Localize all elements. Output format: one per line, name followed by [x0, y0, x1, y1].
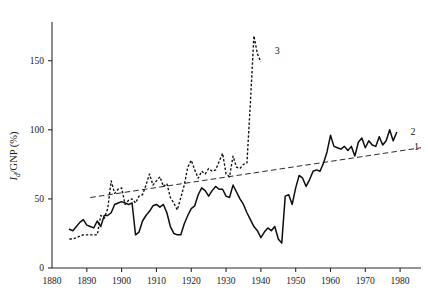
y-axis-label-wrapper: Id/GNP (%) [6, 96, 24, 216]
x-tick-label: 1930 [217, 276, 236, 286]
x-tick-label: 1920 [182, 276, 201, 286]
x-tick-label: 1950 [286, 276, 305, 286]
x-tick-label: 1910 [147, 276, 166, 286]
y-axis-label-symbol: I [8, 177, 19, 181]
series-trend-line [90, 148, 421, 198]
y-axis-label: Id/GNP (%) [8, 131, 22, 180]
x-tick-label: 1970 [356, 276, 375, 286]
chart-axes [52, 22, 421, 268]
curve-label-1: 1 [414, 141, 419, 152]
curve-label-3: 3 [275, 45, 280, 56]
y-axis-label-subscript: d [13, 173, 22, 177]
y-tick-label: 100 [30, 125, 45, 135]
y-tick-label: 0 [39, 263, 44, 273]
y-tick-label: 150 [30, 56, 45, 66]
series-solid-curve [69, 130, 396, 243]
x-tick-label: 1900 [112, 276, 131, 286]
x-axis-ticks: 1880189019001910192019301940195019601970… [43, 268, 410, 286]
y-axis-label-text: /GNP (%) [8, 131, 19, 173]
x-tick-label: 1980 [391, 276, 410, 286]
curve-annotations: 123 [275, 45, 419, 151]
x-tick-label: 1880 [43, 276, 62, 286]
y-tick-label: 50 [35, 194, 45, 204]
x-tick-label: 1890 [77, 276, 96, 286]
x-tick-label: 1940 [251, 276, 270, 286]
x-tick-label: 1960 [321, 276, 340, 286]
curve-label-2: 2 [411, 126, 416, 137]
y-axis-ticks: 050100150 [30, 56, 52, 273]
chart-root: 050100150 188018901900191019201930194019… [0, 0, 428, 296]
line-chart-plot: 050100150 188018901900191019201930194019… [0, 0, 428, 296]
